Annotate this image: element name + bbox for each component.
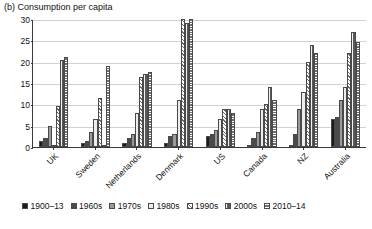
legend-item[interactable]: 2000s [225, 202, 257, 211]
chart-legend: 1900–131960s1970s1980s1990s2000s2010–14 [22, 202, 362, 211]
x-axis-label-slot: Canada [241, 150, 283, 194]
y-axis-tick-label: 0 [25, 144, 30, 153]
x-axis-tick-label-text: Denmark [154, 151, 185, 182]
legend-swatch [109, 203, 115, 209]
legend-label: 1980s [156, 202, 179, 211]
y-axis-tick-label: 25 [21, 37, 30, 46]
legend-swatch [148, 203, 154, 209]
x-axis-tick-label-text: Sweden [73, 151, 102, 180]
bar [48, 126, 52, 147]
legend-swatch [187, 203, 193, 209]
x-axis-tick-label-text: US [212, 151, 227, 166]
legend-label: 1970s [118, 202, 141, 211]
x-axis-label-slot: US [199, 150, 241, 194]
y-axis-tick-label: 15 [21, 80, 30, 89]
bar [231, 113, 235, 147]
y-axis-tick-label: 20 [21, 58, 30, 67]
y-axis-tick-mark [31, 148, 33, 149]
bar-group [33, 20, 75, 147]
x-axis-tick-label-text: UK [45, 151, 60, 166]
chart-figure: (b) Consumption per capita 051015202530 … [0, 0, 372, 229]
legend-label: 2000s [234, 202, 257, 211]
x-axis-label-slot: UK [32, 150, 74, 194]
legend-label: 1900–13 [31, 202, 64, 211]
legend-swatch [264, 203, 270, 209]
legend-label: 1990s [195, 202, 218, 211]
legend-label: 2010–14 [272, 202, 305, 211]
x-axis-labels: UKSwedenNetherlandsDenmarkUSCanadaNZAust… [32, 150, 366, 194]
legend-item[interactable]: 2010–14 [264, 202, 306, 211]
x-axis-tick-label-text: Australia [322, 151, 352, 181]
x-axis-label-slot: Australia [324, 150, 366, 194]
y-axis-tick-label: 30 [21, 16, 30, 25]
x-axis-label-slot: Netherlands [116, 150, 158, 194]
legend-item[interactable]: 1980s [148, 202, 180, 211]
bar [189, 19, 193, 147]
bar [314, 53, 318, 147]
x-axis-label-slot: NZ [283, 150, 325, 194]
legend-item[interactable]: 1970s [109, 202, 141, 211]
bar-group [200, 20, 242, 147]
y-axis-tick-label: 10 [21, 101, 30, 110]
bar-group [116, 20, 158, 147]
bar [356, 42, 360, 147]
legend-item[interactable]: 1990s [187, 202, 219, 211]
legend-swatch [22, 203, 28, 209]
x-axis-tick-label-text: Canada [241, 151, 269, 179]
bar [98, 98, 102, 147]
bar-group [283, 20, 325, 147]
x-axis-label-slot: Denmark [157, 150, 199, 194]
bar-group [241, 20, 283, 147]
legend-label: 1960s [79, 202, 102, 211]
legend-item[interactable]: 1900–13 [22, 202, 64, 211]
x-axis-tick-label-text: NZ [295, 151, 310, 166]
chart-caption: (b) Consumption per capita [4, 2, 113, 12]
bar-group [75, 20, 117, 147]
legend-swatch [225, 203, 231, 209]
bar-group [324, 20, 366, 147]
bar [64, 57, 68, 147]
y-axis-tick-label: 5 [25, 122, 30, 131]
legend-item[interactable]: 1960s [71, 202, 103, 211]
legend-swatch [71, 203, 77, 209]
